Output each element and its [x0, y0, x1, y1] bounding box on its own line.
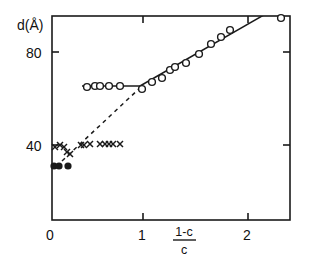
data-point-cross [67, 151, 73, 157]
data-point-open [278, 15, 285, 22]
x-axis-label: 1-c c [173, 225, 196, 257]
data-point-open [97, 83, 104, 90]
data-point-open [84, 84, 91, 91]
x-tick-label-0: 0 [46, 227, 54, 243]
data-point-open [196, 51, 203, 58]
cross-markers [52, 141, 123, 157]
data-point-cross [110, 141, 116, 147]
dashed-extrapolation [62, 86, 142, 161]
data-point-open [106, 83, 113, 90]
data-point-open [149, 79, 156, 86]
axis-ticks [52, 16, 290, 220]
data-point-open [183, 60, 190, 67]
plot-frame [52, 16, 290, 220]
x-axis-label-denominator: c [181, 243, 187, 257]
x-tick-label-2: 2 [243, 227, 251, 243]
scatter-plot: d(Å) 80 40 0 1 2 1-c c [0, 0, 313, 264]
y-tick-label-40: 40 [26, 138, 42, 154]
data-point-open [159, 75, 166, 82]
data-point-cross [87, 141, 93, 147]
open-circle-markers [84, 15, 285, 93]
figure-container: d(Å) 80 40 0 1 2 1-c c [0, 0, 313, 264]
y-tick-label-80: 80 [26, 45, 42, 61]
data-point-filled [55, 162, 62, 169]
data-point-open [208, 41, 215, 48]
data-point-cross [117, 141, 123, 147]
data-point-open [172, 64, 179, 71]
x-tick-label-1: 1 [138, 227, 146, 243]
filled-circle-markers [50, 162, 71, 169]
data-point-open [117, 83, 124, 90]
data-point-open [139, 86, 146, 93]
x-axis-label-numerator: 1-c [175, 225, 192, 239]
data-point-open [227, 27, 234, 34]
data-point-open [218, 34, 225, 41]
y-axis-label: d(Å) [17, 17, 43, 33]
data-point-filled [64, 162, 71, 169]
